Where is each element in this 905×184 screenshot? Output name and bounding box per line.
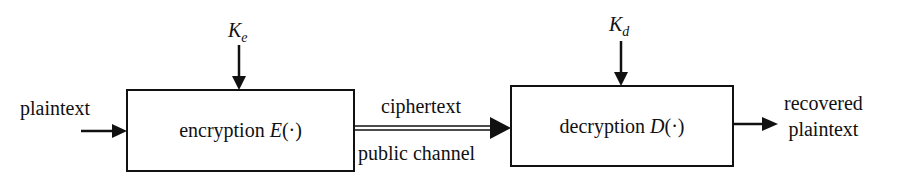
decryption-label: decryption bbox=[560, 115, 646, 138]
encrypt-key-subscript: e bbox=[241, 30, 247, 45]
decrypt-key-symbol: K bbox=[609, 13, 622, 35]
decryption-arg: (·) bbox=[665, 115, 685, 138]
plaintext-input-label: plaintext bbox=[20, 98, 90, 118]
decrypt-key-label: Kd bbox=[609, 14, 629, 39]
encryption-block: encryption E(·) bbox=[126, 89, 355, 172]
decrypt-key-subscript: d bbox=[622, 24, 629, 39]
output-label-line2: plaintext bbox=[784, 116, 863, 142]
decrypt-key-arrow bbox=[614, 41, 628, 86]
encryption-func: E bbox=[270, 119, 282, 142]
public-channel-label: public channel bbox=[358, 143, 475, 163]
output-label: recovered plaintext bbox=[784, 90, 863, 142]
decryption-block: decryption D(·) bbox=[510, 85, 734, 167]
input-arrow bbox=[81, 124, 127, 138]
encrypt-key-label: Ke bbox=[228, 20, 248, 45]
encrypt-key-arrow bbox=[232, 45, 246, 90]
encrypt-key-symbol: K bbox=[228, 19, 241, 41]
output-arrow bbox=[734, 117, 778, 131]
encryption-label: encryption bbox=[179, 119, 265, 142]
public-channel-arrow bbox=[355, 117, 511, 139]
encryption-arg: (·) bbox=[282, 119, 302, 142]
decryption-func: D bbox=[650, 115, 664, 138]
output-label-line1: recovered bbox=[784, 90, 863, 116]
ciphertext-label: ciphertext bbox=[381, 96, 461, 116]
